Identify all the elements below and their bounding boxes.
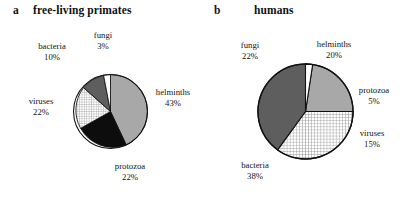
pie-svg-b [256, 62, 355, 161]
pie-label-viruses-a: viruses 22% [16, 96, 66, 117]
pie-label-helminths-b: helminths 20% [305, 39, 363, 60]
pie-label-helminths-b-name: helminths [317, 39, 351, 49]
pie-label-viruses-a-name: viruses [29, 96, 54, 106]
panel-letter-b: b [214, 4, 220, 16]
pie-label-protozoa-a-value: 22% [103, 172, 157, 183]
pie-label-helminths-a: helminths 43% [146, 87, 200, 108]
pie-label-helminths-a-name: helminths [156, 87, 190, 97]
pie-label-viruses-b-name: viruses [360, 128, 385, 138]
pie-label-bacteria-b: bacteria 38% [228, 160, 282, 181]
pie-label-protozoa-a: protozoa 22% [103, 161, 157, 182]
pie-label-protozoa-b-name: protozoa [359, 85, 389, 95]
pie-label-bacteria-a: bacteria 10% [27, 41, 77, 62]
pie-label-fungi-a-value: 3% [86, 41, 120, 52]
pie-label-bacteria-a-value: 10% [27, 52, 77, 63]
panel-letter-a: a [13, 4, 19, 16]
pie-label-fungi-a: fungi 3% [86, 30, 120, 51]
pie-label-protozoa-b: protozoa 5% [349, 85, 399, 106]
pie-label-fungi-a-name: fungi [94, 30, 112, 40]
pie-label-fungi-b-name: fungi [241, 40, 259, 50]
pie-label-bacteria-b-value: 38% [228, 171, 282, 182]
pie-svg-a [72, 73, 149, 150]
pie-label-helminths-b-value: 20% [305, 50, 363, 61]
panel-humans: b humans fungi 22% helminth [201, 0, 403, 199]
pie-label-viruses-a-value: 22% [16, 107, 66, 118]
pie-label-viruses-b: viruses 15% [349, 128, 395, 149]
pie-label-helminths-a-value: 43% [146, 98, 200, 109]
pie-label-protozoa-b-value: 5% [349, 96, 399, 107]
panel-free-living-primates: a free-living primates fungi 3% [0, 0, 201, 199]
pie-label-bacteria-b-name: bacteria [241, 160, 269, 170]
pie-chart-free-living-primates [72, 73, 149, 150]
pie-label-bacteria-a-name: bacteria [38, 41, 66, 51]
pie-label-fungi-b-value: 22% [230, 51, 270, 62]
pie-label-protozoa-a-name: protozoa [115, 161, 145, 171]
pie-chart-humans [256, 62, 355, 161]
panel-title-a: free-living primates [33, 4, 132, 16]
pie-label-viruses-b-value: 15% [349, 139, 395, 150]
pie-label-fungi-b: fungi 22% [230, 40, 270, 61]
panel-title-b: humans [254, 4, 294, 16]
